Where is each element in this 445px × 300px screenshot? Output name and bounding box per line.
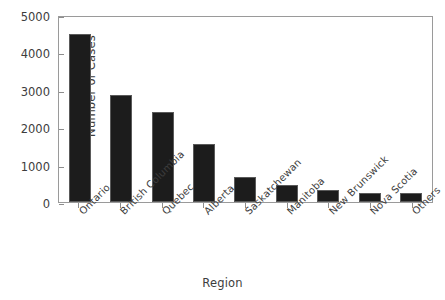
bar[interactable] bbox=[69, 34, 91, 202]
x-axis-title: Region bbox=[0, 276, 445, 290]
plot-area: Number of Cases 010002000300040005000 bbox=[58, 16, 433, 203]
x-label-slot: Ontario bbox=[58, 209, 100, 271]
x-label-slot: British Columbia bbox=[100, 209, 142, 271]
bar-slot bbox=[225, 17, 266, 202]
x-label-slot: Alberta bbox=[183, 209, 225, 271]
bar-chart: Number of Cases 010002000300040005000 On… bbox=[0, 0, 445, 300]
bar-slot bbox=[59, 17, 100, 202]
x-label-slot: Nova Scotia bbox=[350, 209, 392, 271]
x-label-slot: Saskatchewan bbox=[225, 209, 267, 271]
x-label-slot: Others bbox=[391, 209, 433, 271]
bar-slot bbox=[183, 17, 224, 202]
bar-slot bbox=[100, 17, 141, 202]
x-axis-labels: OntarioBritish ColumbiaQuebecAlbertaSask… bbox=[58, 209, 433, 271]
x-label-slot: Manitoba bbox=[266, 209, 308, 271]
bar[interactable] bbox=[110, 95, 132, 202]
x-label-slot: New Brunswick bbox=[308, 209, 350, 271]
bar[interactable] bbox=[193, 144, 215, 202]
x-label-slot: Quebec bbox=[141, 209, 183, 271]
bar-slot bbox=[308, 17, 349, 202]
